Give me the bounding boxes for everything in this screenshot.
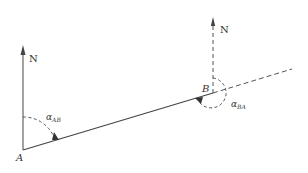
north-label-a: N	[29, 53, 38, 64]
north-arrow-b	[211, 17, 215, 93]
north-arrowhead-a-icon	[21, 45, 26, 55]
angle-label-alpha-ba: αBA	[231, 99, 246, 110]
azimuth-diagram: N N αAB αBA A B	[0, 0, 308, 173]
line-ab-extension	[213, 69, 292, 93]
angle-label-alpha-ab: αAB	[46, 112, 61, 123]
arc-arrowhead-ab-icon	[52, 132, 59, 140]
north-arrow-a	[21, 45, 26, 150]
point-label-b: B	[201, 83, 209, 94]
north-arrowhead-b-icon	[211, 17, 215, 26]
point-label-a: A	[15, 152, 23, 163]
north-label-b: N	[220, 24, 229, 35]
arc-arrowhead-ba-icon	[195, 97, 203, 104]
